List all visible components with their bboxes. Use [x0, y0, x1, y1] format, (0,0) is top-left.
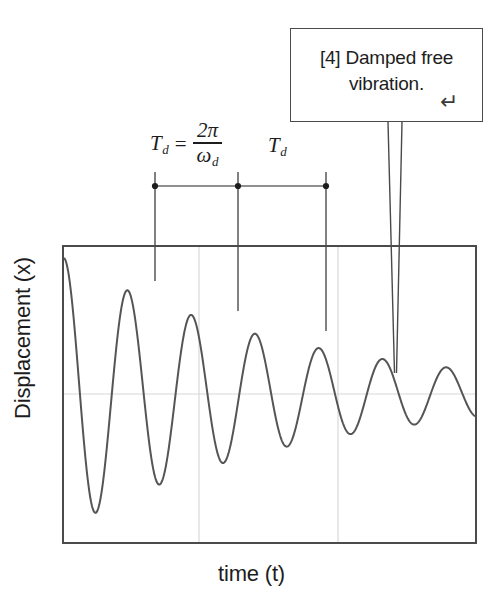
second-period-label: Td — [268, 133, 287, 160]
second-period-symbol: T — [268, 133, 280, 157]
dimension-dot-1 — [152, 183, 158, 189]
dimension-dot-3 — [323, 183, 329, 189]
period-formula-label: Td = 2π ωd — [150, 120, 222, 168]
plot-frame — [62, 245, 477, 544]
fraction-denominator: ωd — [193, 144, 223, 168]
figure-root: [4] Damped free vibration. ↵ Td = 2π ωd … — [0, 0, 503, 606]
period-fraction: 2π ωd — [193, 120, 223, 168]
dimension-dot-2 — [235, 183, 241, 189]
annotation-callout-box[interactable]: [4] Damped free vibration. ↵ — [290, 28, 483, 122]
return-arrow-icon: ↵ — [440, 91, 458, 113]
y-axis-title: Displacement (x) — [10, 223, 36, 453]
second-period-subscript: d — [280, 144, 287, 159]
equals-sign: = — [175, 132, 187, 157]
period-symbol: Td — [150, 131, 169, 158]
fraction-numerator: 2π — [193, 120, 222, 142]
x-axis-title: time (t) — [0, 561, 503, 587]
